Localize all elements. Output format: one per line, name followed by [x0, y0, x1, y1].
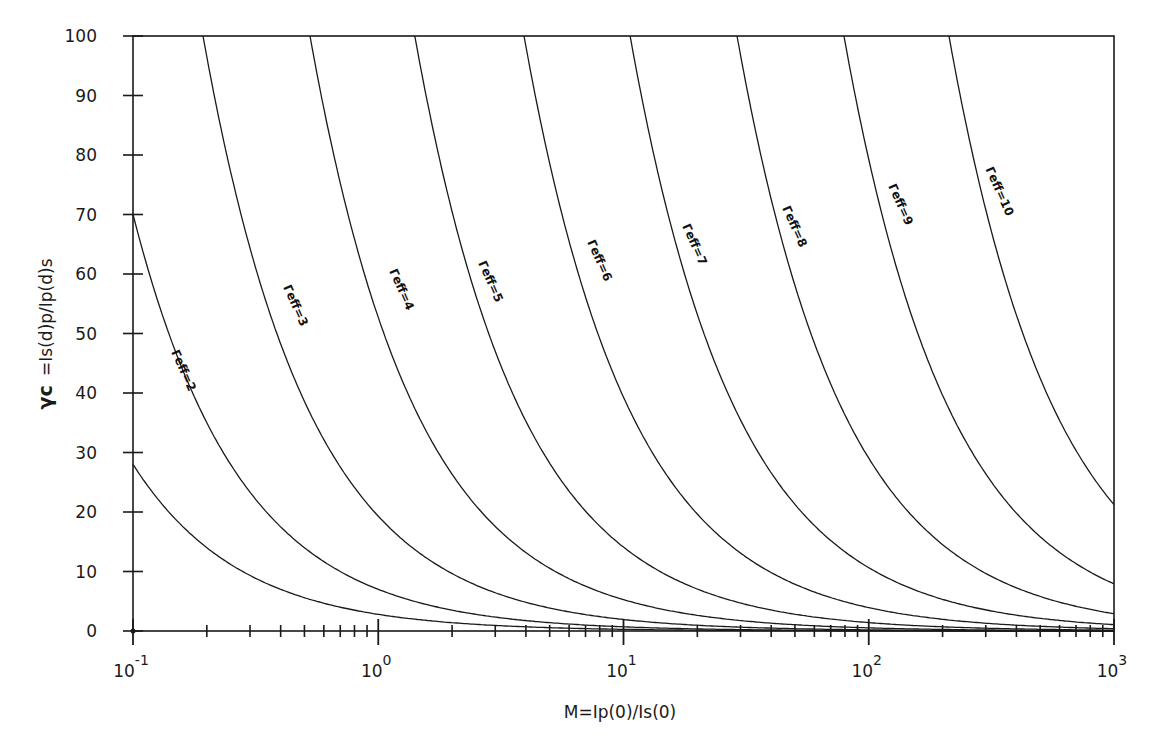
x-tick-label: 103: [1097, 652, 1128, 681]
svg-text:γc =Is(d)p/Ip(d)s: γc =Is(d)p/Ip(d)s: [34, 258, 56, 409]
curve-label-gamma-9: Γeff=9: [885, 181, 916, 227]
curve-label-gamma-3: Γeff=3: [280, 282, 311, 328]
chart: 0102030405060708090100 10-1100101102103 …: [0, 0, 1156, 746]
curve-gamma-5: [415, 36, 1114, 630]
y-tick-label: 40: [75, 383, 97, 403]
y-tick-label: 90: [75, 86, 97, 106]
origin-dot: [131, 629, 136, 634]
curve-label-gamma-7: Γeff=7: [679, 221, 710, 267]
curve-label-gamma-5: Γeff=5: [475, 258, 506, 304]
curve-gamma-10: [949, 36, 1114, 505]
x-tick-label: 100: [361, 652, 392, 681]
y-tick-label: 0: [86, 621, 97, 641]
y-axis-title-expression: =Is(d)p/Ip(d)s: [36, 258, 56, 376]
y-tick-label: 10: [75, 562, 97, 582]
y-tick-label: 30: [75, 443, 97, 463]
curve-gamma-2: [133, 215, 1114, 632]
curve-gamma-4: [310, 36, 1114, 631]
x-axis-title: M=Ip(0)/Is(0): [564, 702, 676, 722]
curve-gamma-7: [630, 36, 1114, 625]
y-tick-label: 100: [65, 26, 97, 46]
curve-gamma-9: [844, 36, 1114, 584]
x-tick-label: 101: [606, 652, 637, 681]
curve-label-gamma-10: Γeff=10: [983, 165, 1017, 218]
curve-label-gamma-2: Γeff=2: [168, 347, 199, 393]
curve-label-gamma-6: Γeff=6: [584, 237, 615, 283]
curve-gamma-6: [524, 36, 1114, 629]
x-tick-label: 102: [851, 652, 882, 681]
y-tick-label: 70: [75, 205, 97, 225]
y-tick-label: 20: [75, 502, 97, 522]
x-tick-label: 10-1: [113, 652, 149, 681]
y-axis: 0102030405060708090100: [65, 26, 143, 641]
curves: [133, 36, 1114, 631]
y-tick-label: 50: [75, 324, 97, 344]
y-tick-label: 80: [75, 145, 97, 165]
y-axis-title: γc =Is(d)p/Ip(d)s: [34, 258, 56, 409]
curve-gamma-8: [737, 36, 1114, 614]
y-axis-title-symbol: γc: [34, 385, 56, 409]
curve-labels: Γeff=2Γeff=3Γeff=4Γeff=5Γeff=6Γeff=7Γeff…: [168, 165, 1016, 394]
y-tick-label: 60: [75, 264, 97, 284]
curve-label-gamma-4: Γeff=4: [386, 266, 417, 312]
curve-gamma-3: [203, 36, 1114, 631]
curve-label-gamma-8: Γeff=8: [779, 203, 810, 249]
